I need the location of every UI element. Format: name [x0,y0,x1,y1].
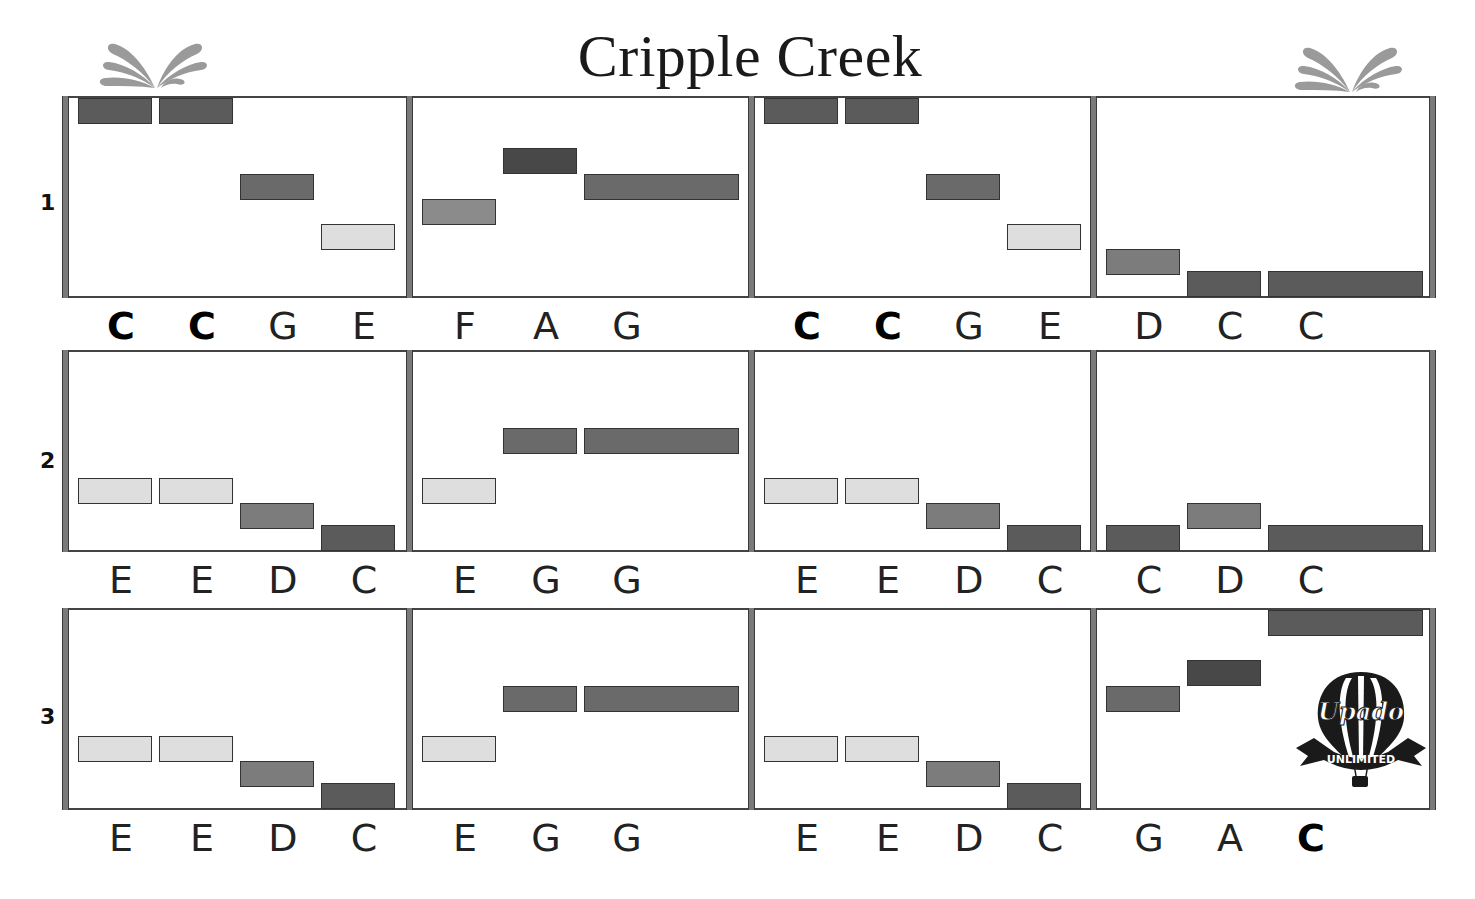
note-letter: C [334,558,394,602]
note-letter: C [1020,816,1080,860]
measure [62,608,410,810]
note-letter: G [516,816,576,860]
barline [62,96,69,298]
barline [406,350,413,552]
note-bar-c [1007,783,1081,809]
note-letters: FAG [406,304,748,354]
note-letter: A [516,304,576,348]
note-letter: C [858,304,918,348]
note-bar-e [78,478,152,504]
note-letter: E [435,816,495,860]
note-letter: G [597,304,657,348]
barline [1090,96,1097,298]
note-bar-g [503,686,577,712]
note-letter: D [253,816,313,860]
note-bar-d [1187,503,1261,529]
note-letter: F [435,304,495,348]
note-bar-g [503,428,577,454]
barline [62,608,69,810]
note-letters: EEDC [748,816,1090,866]
note-bar-e [78,736,152,762]
note-letters: CDC [1090,558,1432,608]
logo-tagline: UNLIMITED [1327,753,1395,766]
page-title: Cripple Creek [0,22,1475,91]
row-number-label: 1 [40,190,55,215]
barline [1090,350,1097,552]
note-letter: E [1020,304,1080,348]
note-letter: E [91,816,151,860]
note-bar-c [1007,525,1081,551]
note-letters: CCGE [62,304,406,354]
note-letters: DCC [1090,304,1432,354]
note-letters: EGG [406,558,748,608]
note-bar-d [926,503,1000,529]
note-bar-d [240,761,314,787]
barline [748,350,755,552]
measure [748,350,1094,552]
note-letter: E [858,558,918,602]
note-letter: E [858,816,918,860]
splash-icon [1290,40,1410,100]
note-bar-e [1007,224,1081,250]
barline-end [1429,96,1436,298]
note-letter: G [516,558,576,602]
note-bar-e [845,478,919,504]
note-bar-g [926,174,1000,200]
note-letter: A [1200,816,1260,860]
note-letters: CCGE [748,304,1090,354]
logo-name: Upado [1318,697,1404,726]
note-bar-c [321,525,395,551]
note-bar-g [240,174,314,200]
note-letter: G [597,558,657,602]
measure [406,96,752,298]
note-bar-e [422,478,496,504]
note-letter: G [1119,816,1179,860]
note-bar-g [1106,686,1180,712]
note-bar-a [1187,660,1261,686]
note-bar-c [1268,271,1423,297]
note-bar-c [1268,525,1423,551]
note-letter: E [334,304,394,348]
note-letter: G [253,304,313,348]
note-bar-e [845,736,919,762]
note-bar-e [422,736,496,762]
note-letter: C [1281,304,1341,348]
measure [406,350,752,552]
note-letter: C [1200,304,1260,348]
measure [1090,350,1436,552]
note-bar-e [321,224,395,250]
measure [748,608,1094,810]
note-letter: C [777,304,837,348]
note-letters: EEDC [62,816,406,866]
note-letter: D [1200,558,1260,602]
note-bar-g [584,686,739,712]
note-bar-a [503,148,577,174]
barline [748,608,755,810]
note-bar-g [584,428,739,454]
note-bar-c [78,98,152,124]
measure [406,608,752,810]
note-letter: D [939,558,999,602]
note-letter: C [1020,558,1080,602]
note-letter: D [253,558,313,602]
barline [406,608,413,810]
splash-icon [95,36,215,96]
note-bar-c [1187,271,1261,297]
note-letter: D [939,816,999,860]
note-letter: E [777,558,837,602]
note-letter: E [777,816,837,860]
note-bar-e [159,736,233,762]
note-letter: C [1281,558,1341,602]
note-bar-e [764,736,838,762]
note-letters: EEDC [62,558,406,608]
note-letter: G [597,816,657,860]
note-letter: D [1119,304,1179,348]
note-letter: C [334,816,394,860]
row-number-label: 2 [40,448,55,473]
barline [406,96,413,298]
note-letter: E [435,558,495,602]
hot-air-balloon-logo: UNLIMITED Upado [1294,668,1428,792]
note-bar-d [1106,249,1180,275]
note-letters: EGG [406,816,748,866]
barline [748,96,755,298]
